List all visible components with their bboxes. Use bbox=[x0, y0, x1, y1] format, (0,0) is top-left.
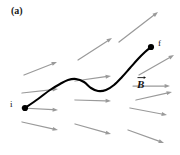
magnetic-field-symbol: B bbox=[137, 79, 144, 90]
field-arrow bbox=[130, 108, 167, 116]
start-point-label: i bbox=[10, 100, 13, 109]
physics-figure-panel-a: (a) i f B bbox=[0, 0, 180, 155]
field-arrow bbox=[136, 91, 172, 100]
field-arrow bbox=[119, 12, 158, 42]
field-arrow bbox=[78, 38, 112, 60]
field-arrow-group bbox=[22, 12, 174, 143]
particle-path-curve bbox=[25, 47, 151, 108]
start-point-marker bbox=[22, 105, 28, 111]
magnetic-field-label: B bbox=[137, 79, 144, 90]
field-arrow bbox=[128, 130, 164, 143]
panel-label: (a) bbox=[11, 6, 23, 16]
field-arrow bbox=[75, 99, 111, 103]
vector-arrow-icon bbox=[137, 75, 146, 79]
field-arrow bbox=[75, 124, 111, 134]
end-point-marker bbox=[148, 44, 154, 50]
end-point-label: f bbox=[158, 39, 161, 48]
field-arrow bbox=[24, 62, 57, 75]
magnetic-field-diagram bbox=[0, 0, 180, 155]
field-arrow bbox=[22, 122, 58, 131]
field-arrow bbox=[139, 55, 174, 75]
